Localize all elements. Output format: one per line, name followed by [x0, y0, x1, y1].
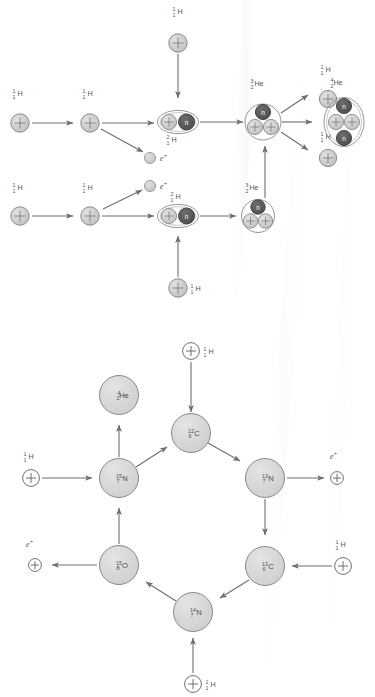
isotope-label-o15: 158O	[116, 560, 128, 572]
neutron-glyph: n	[342, 135, 346, 142]
cno-cycle-group: 11H 126C 137N e+	[23, 343, 352, 693]
positron-label: e+	[26, 539, 34, 549]
isotope-label-h: 11H	[173, 6, 183, 18]
isotope-label-n15: 157N	[116, 473, 128, 485]
isotope-label-h: 11H	[24, 451, 34, 463]
arrow-positron-bot	[103, 190, 142, 209]
isotope-label-h: 11H	[13, 182, 23, 194]
isotope-label-deuterium: 21H	[171, 191, 181, 203]
pp-node-positron-top[interactable]: e+	[144, 152, 167, 163]
pp-node-h-top-left-2[interactable]: 11H	[81, 88, 99, 132]
isotope-label-he4: 42He	[117, 390, 129, 402]
isotope-label-deuterium: 21H	[167, 134, 177, 146]
cno-node-c12[interactable]: 126C	[172, 414, 211, 453]
isotope-label-h: 11H	[83, 182, 93, 194]
pp-node-h-bot-left-1[interactable]: 11H	[11, 182, 29, 225]
arrow-n14-to-o15	[146, 582, 176, 601]
positron-circle	[144, 152, 155, 163]
arrow-c13-to-n14	[220, 580, 249, 598]
cno-node-o15[interactable]: 158O	[100, 546, 139, 585]
pp-node-h-bot-left-2[interactable]: 11H	[81, 182, 99, 225]
fusion-diagram: 11H 11H 11H e+	[0, 0, 375, 697]
isotope-label-c13: 136C	[262, 561, 274, 573]
plus-glyph	[338, 561, 348, 571]
isotope-label-h: 11H	[191, 283, 201, 295]
isotope-label-n13: 137N	[262, 473, 274, 485]
isotope-label-h: 11H	[13, 88, 23, 100]
pp-node-he3-bot[interactable]: 32He n	[242, 182, 275, 233]
pp-node-he3-top[interactable]: 32He n	[245, 78, 281, 140]
pp-node-h-bot-feed[interactable]: 11H	[169, 279, 201, 297]
cno-node-n15[interactable]: 157N	[100, 459, 139, 498]
isotope-label-h: 11H	[204, 346, 214, 358]
isotope-label-h: 11H	[321, 64, 331, 76]
cno-node-n14[interactable]: 147N	[174, 593, 213, 632]
isotope-label-h: 11H	[206, 679, 216, 691]
neutron-glyph: n	[342, 103, 346, 110]
plus-glyph	[188, 679, 198, 689]
plus-glyph	[186, 346, 196, 356]
arrow-positron-top	[101, 129, 143, 152]
pp-chain-group: 11H 11H 11H e+	[11, 6, 364, 297]
positron-label: e+	[160, 153, 168, 163]
isotope-label-he4: 42He	[331, 77, 343, 89]
positron-circle	[144, 180, 155, 191]
isotope-label-h: 11H	[83, 88, 93, 100]
cno-input-h-left[interactable]: 11H	[23, 451, 40, 486]
cno-input-h-bottom[interactable]: 11H	[185, 676, 216, 693]
isotope-label-he3: 32He	[251, 78, 264, 90]
isotope-label-h: 11H	[336, 539, 346, 551]
arrow-c12-to-n13	[208, 443, 240, 461]
plus-glyph	[31, 561, 39, 569]
cno-output-positron-left[interactable]: e+	[26, 539, 41, 572]
cno-node-c13[interactable]: 136C	[246, 547, 285, 586]
cno-node-n13[interactable]: 137N	[246, 459, 285, 498]
isotope-label-he3: 32He	[246, 182, 259, 194]
neutron-glyph: n	[256, 204, 260, 211]
isotope-label-c12: 126C	[188, 428, 200, 440]
neutron-glyph: n	[185, 213, 189, 220]
arrow-n15-to-c12	[136, 447, 167, 467]
pp-node-deuterium-bot[interactable]: 21H n	[158, 191, 199, 228]
cno-input-h-top[interactable]: 11H	[183, 343, 214, 360]
pp-node-h-top-left-1[interactable]: 11H	[11, 88, 29, 132]
pp-node-positron-bot[interactable]: e+	[144, 180, 167, 191]
pp-node-deuterium-top[interactable]: n 21H	[158, 110, 199, 145]
isotope-label-n14: 147N	[190, 607, 202, 619]
pp-node-h-top-feed[interactable]: 11H	[169, 6, 187, 52]
neutron-glyph: n	[261, 109, 265, 116]
diagram-canvas: 11H 11H 11H e+	[0, 0, 375, 697]
plus-glyph	[26, 473, 36, 483]
neutron-glyph: n	[185, 119, 189, 126]
cno-output-he4[interactable]: 42He	[100, 376, 139, 415]
positron-label: e+	[160, 181, 168, 191]
